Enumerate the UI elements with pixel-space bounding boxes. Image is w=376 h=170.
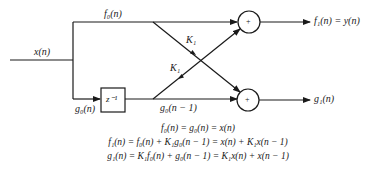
output-bottom-label: g₁(n) [314, 94, 334, 104]
cross-bottom-to-top [153, 29, 240, 99]
delay-label: z⁻¹ [106, 95, 117, 104]
equation-3: g₁(n) = K₁f₀(n) + g₀(n − 1) = K₁x(n) + x… [10, 152, 376, 162]
top-branch-label: f₀(n) [104, 9, 122, 19]
top-adder-symbol: + [246, 18, 251, 26]
equation-2: f₁(n) = f₀(n) + K₁g₀(n − 1) = x(n) + K₁x… [10, 138, 376, 148]
output-top-label: f₁(n) = y(n) [314, 16, 360, 26]
bottom-branch-label: g₀(n) [75, 104, 95, 114]
coef-top-label: K₁ [186, 35, 196, 45]
delayed-label: g₀(n − 1) [160, 103, 197, 113]
cross-top-to-bottom [153, 22, 240, 92]
k1-arrow-top [190, 50, 196, 55]
equation-1: f₀(n) = g₀(n) = x(n) [10, 124, 376, 134]
input-label: x(n) [34, 47, 50, 57]
bottom-adder-symbol: + [245, 96, 250, 104]
coef-bottom-label: K₁ [170, 63, 180, 73]
